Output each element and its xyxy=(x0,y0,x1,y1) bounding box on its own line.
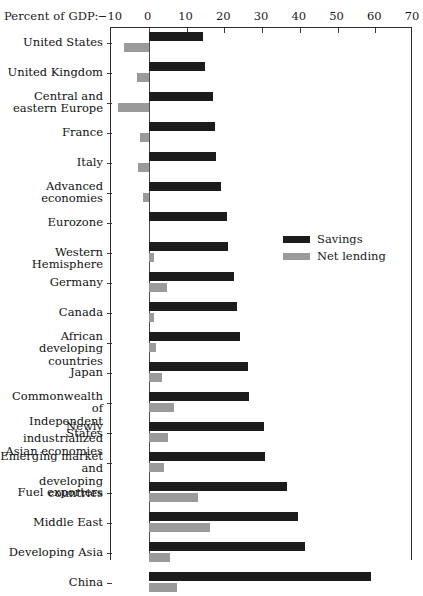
legend-label-savings: Savings xyxy=(317,231,363,248)
bar-savings xyxy=(149,512,298,521)
bar-row xyxy=(111,569,411,596)
bar-net-lending xyxy=(149,283,167,292)
category-label: United Kingdom xyxy=(0,66,103,79)
x-axis-title: Percent of GDP: xyxy=(4,9,98,23)
category-label: United States xyxy=(0,36,103,49)
x-tick-label-50: 50 xyxy=(329,9,344,23)
bar-savings xyxy=(149,452,265,461)
category-label: Middle East xyxy=(0,516,103,529)
y-tick-mark xyxy=(107,313,112,314)
category-label: Central and eastern Europe xyxy=(0,90,103,115)
category-label: Fuel exporters xyxy=(0,486,103,499)
chart-legend: Savings Net lending xyxy=(283,231,386,265)
bar-savings xyxy=(149,332,240,341)
category-label: China xyxy=(0,576,103,589)
bar-row xyxy=(111,419,411,449)
bar-net-lending xyxy=(149,253,154,262)
bar-net-lending xyxy=(149,553,170,562)
bar-net-lending xyxy=(140,133,149,142)
y-tick-mark xyxy=(107,463,112,464)
plot-area: Savings Net lending xyxy=(110,27,412,560)
bar-savings xyxy=(149,272,234,281)
y-tick-mark xyxy=(107,103,112,104)
category-label: Japan xyxy=(0,366,103,379)
legend-swatch-savings xyxy=(283,236,310,243)
x-tick-label-30: 30 xyxy=(254,9,269,23)
y-tick-mark xyxy=(107,133,112,134)
bar-row xyxy=(111,389,411,419)
x-tick-label-70: 70 xyxy=(405,9,420,23)
bar-savings xyxy=(149,422,264,431)
x-tick-label-60: 60 xyxy=(367,9,382,23)
legend-label-net-lending: Net lending xyxy=(317,248,386,265)
y-tick-mark xyxy=(107,73,112,74)
y-tick-mark xyxy=(107,553,112,554)
bar-net-lending xyxy=(149,463,164,472)
bar-row xyxy=(111,479,411,509)
legend-swatch-net-lending xyxy=(283,253,310,260)
category-label: Western Hemisphere xyxy=(0,246,103,271)
y-tick-mark xyxy=(107,43,112,44)
bar-row xyxy=(111,509,411,539)
category-label: Canada xyxy=(0,306,103,319)
y-tick-mark xyxy=(107,373,112,374)
bar-savings xyxy=(149,182,221,191)
bar-row xyxy=(111,29,411,59)
legend-item-savings: Savings xyxy=(283,231,386,248)
bar-net-lending xyxy=(149,583,177,592)
bar-savings xyxy=(149,152,216,161)
y-tick-mark xyxy=(107,493,112,494)
y-tick-mark xyxy=(107,253,112,254)
bar-net-lending xyxy=(149,373,163,382)
category-label: African developing countries xyxy=(0,330,103,368)
bar-net-lending xyxy=(149,313,155,322)
bar-row xyxy=(111,179,411,209)
bar-net-lending xyxy=(143,193,149,202)
x-tick-label-20: 20 xyxy=(216,9,231,23)
bar-row xyxy=(111,119,411,149)
bar-savings xyxy=(149,302,237,311)
bar-savings xyxy=(149,32,203,41)
bar-row xyxy=(111,59,411,89)
bar-row xyxy=(111,539,411,569)
bar-net-lending xyxy=(138,163,149,172)
bar-savings xyxy=(149,212,227,221)
bar-row xyxy=(111,89,411,119)
bar-savings xyxy=(149,392,249,401)
bar-savings xyxy=(149,542,305,551)
category-label: Italy xyxy=(0,156,103,169)
y-tick-mark xyxy=(107,583,112,584)
x-tick-label-0: 0 xyxy=(144,9,151,23)
bar-savings xyxy=(149,362,248,371)
bar-savings xyxy=(149,242,228,251)
y-tick-mark xyxy=(107,433,112,434)
y-tick-mark xyxy=(107,403,112,404)
bar-savings xyxy=(149,572,372,581)
bar-row xyxy=(111,449,411,479)
y-tick-mark xyxy=(107,163,112,164)
bar-row xyxy=(111,149,411,179)
bar-savings xyxy=(149,92,213,101)
bar-savings xyxy=(149,122,215,131)
bar-net-lending xyxy=(137,73,149,82)
bar-row xyxy=(111,359,411,389)
bar-net-lending xyxy=(118,103,149,112)
bar-net-lending xyxy=(149,433,169,442)
y-tick-mark xyxy=(107,283,112,284)
y-tick-mark xyxy=(107,223,112,224)
bar-net-lending xyxy=(149,523,210,532)
y-tick-mark xyxy=(107,193,112,194)
category-label: Developing Asia xyxy=(0,546,103,559)
bar-savings xyxy=(149,62,205,71)
bar-savings xyxy=(149,482,288,491)
y-tick-mark xyxy=(107,523,112,524)
bar-net-lending xyxy=(149,493,198,502)
x-tick-label-40: 40 xyxy=(291,9,306,23)
bar-net-lending xyxy=(149,403,175,412)
bar-row xyxy=(111,269,411,299)
x-tick-label-10: 10 xyxy=(178,9,193,23)
x-tick-label--10: −10 xyxy=(98,9,122,23)
legend-item-net-lending: Net lending xyxy=(283,248,386,265)
category-label: Eurozone xyxy=(0,216,103,229)
